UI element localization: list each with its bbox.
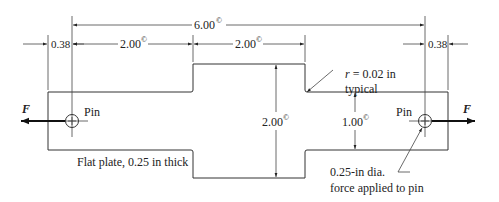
dim-narrow-h-mark: ©: [363, 113, 369, 122]
plate-diagram: 6.00 © 2.00 © 2.00 © 0.38 0.38 2.00 © 1.…: [0, 0, 499, 202]
fillet-leader: [307, 70, 333, 92]
dim-narrow-h-label: 1.00: [342, 115, 363, 129]
dim-left-seg-label: 2.00: [120, 37, 141, 51]
dim-wide-h-label: 2.00: [262, 115, 283, 129]
dim-left-seg-mark: ©: [141, 35, 147, 44]
dim-overall-label: 6.00: [194, 18, 215, 32]
left-force-label: F: [21, 102, 30, 116]
dim-wide-h-mark: ©: [283, 113, 289, 122]
pin-note-line2: force applied to pin: [330, 181, 424, 195]
fillet-note-line1: r = 0.02 in: [345, 67, 396, 81]
left-pin-label: Pin: [84, 105, 100, 119]
dim-right-edge-label: 0.38: [428, 38, 448, 50]
pin-note-line1: 0.25-in dia.: [330, 165, 385, 179]
plate-note: Flat plate, 0.25 in thick: [77, 155, 188, 169]
fillet-note-line2: typical: [345, 82, 378, 96]
right-pin-label: Pin: [396, 105, 412, 119]
right-force-label: F: [462, 102, 471, 116]
dim-left-edge-label: 0.38: [51, 38, 71, 50]
dim-overall-mark: ©: [216, 16, 222, 25]
dim-mid-seg-mark: ©: [256, 35, 262, 44]
dim-mid-seg-label: 2.00: [235, 37, 256, 51]
